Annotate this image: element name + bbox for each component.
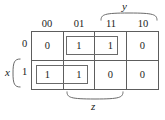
column-header-10: 10 xyxy=(127,18,159,30)
brace-z-icon xyxy=(66,91,124,100)
cell-value: 0 xyxy=(140,40,145,51)
column-header-00: 00 xyxy=(31,18,63,30)
variable-label-y: y xyxy=(122,1,127,12)
cell-r1-c11: 0 xyxy=(95,61,127,90)
cell-r1-c10: 0 xyxy=(127,61,159,90)
cell-value: 1 xyxy=(108,40,113,51)
variable-label-x: x xyxy=(5,66,10,78)
cell-r0-c10: 0 xyxy=(127,32,159,61)
cell-value: 1 xyxy=(76,69,81,80)
cell-value: 0 xyxy=(45,40,50,51)
variable-label-z: z xyxy=(91,101,95,112)
cell-value: 1 xyxy=(76,40,81,51)
cell-value: 0 xyxy=(108,69,113,80)
cell-value: 0 xyxy=(140,69,145,80)
karnaugh-map-figure: y 00 01 11 10 0 1 x 0 1 1 0 1 1 0 0 z xyxy=(0,0,165,120)
column-header-11: 11 xyxy=(95,18,127,30)
row-header-0: 0 xyxy=(19,38,30,50)
column-header-01: 01 xyxy=(63,18,95,30)
cell-value: 1 xyxy=(45,69,50,80)
cell-r0-c00: 0 xyxy=(32,32,64,61)
brace-x-icon xyxy=(12,58,21,88)
